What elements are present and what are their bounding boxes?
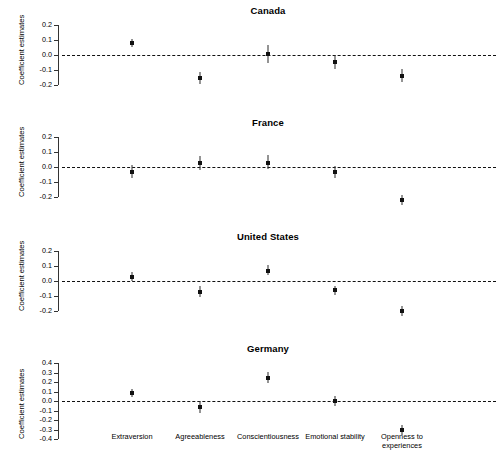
panel-canada: Canada0.20.10.0-0.1-0.2Coefficient estim… xyxy=(0,0,496,105)
y-axis-tick xyxy=(54,439,58,440)
data-point xyxy=(198,290,202,294)
y-axis-tick xyxy=(54,311,58,312)
y-axis-tick-label: 0.2 xyxy=(42,378,52,385)
panel-france: France0.20.10.0-0.1-0.2Coefficient estim… xyxy=(0,110,496,217)
y-axis-tick-label: -0.2 xyxy=(40,416,52,423)
y-axis-tick xyxy=(54,251,58,252)
y-axis-tick xyxy=(54,70,58,71)
y-axis-tick-label: -0.1 xyxy=(40,178,52,185)
y-axis-label: Coefficient estimates xyxy=(18,241,26,311)
y-axis-tick xyxy=(54,401,58,402)
data-point xyxy=(130,41,134,45)
y-axis-tick-label: -0.2 xyxy=(40,81,52,88)
zero-reference-line xyxy=(62,167,496,168)
y-axis-tick-label: -0.3 xyxy=(40,426,52,433)
zero-reference-line xyxy=(62,281,496,282)
y-axis-tick xyxy=(54,363,58,364)
data-point xyxy=(333,170,337,174)
data-point xyxy=(333,60,337,64)
y-axis-tick xyxy=(54,182,58,183)
data-point xyxy=(266,52,270,56)
y-axis-tick xyxy=(54,420,58,421)
y-axis-tick xyxy=(54,55,58,56)
y-axis-tick-label: 0.1 xyxy=(42,388,52,395)
y-axis-tick-label: -0.4 xyxy=(40,435,52,442)
y-axis-spine xyxy=(58,137,59,197)
y-axis-tick-label: -0.1 xyxy=(40,407,52,414)
y-axis-spine xyxy=(58,363,59,439)
data-point xyxy=(198,76,202,80)
data-point xyxy=(266,161,270,165)
y-axis-tick xyxy=(54,296,58,297)
plot-area: 0.40.30.20.10.0-0.1-0.2-0.3-0.4Coefficie… xyxy=(58,363,496,439)
data-point xyxy=(198,405,202,409)
panel-title: United States xyxy=(58,231,478,242)
y-axis-tick-label: -0.2 xyxy=(40,193,52,200)
y-axis-tick-label: 0.2 xyxy=(42,247,52,254)
data-point xyxy=(400,74,404,78)
plot-area: 0.20.10.0-0.1-0.2Coefficient estimates xyxy=(58,251,496,311)
plot-area: 0.20.10.0-0.1-0.2Coefficient estimates xyxy=(58,137,496,197)
y-axis-tick-label: -0.1 xyxy=(40,66,52,73)
y-axis-tick xyxy=(54,40,58,41)
data-point xyxy=(266,269,270,273)
coefficient-estimates-figure: Canada0.20.10.0-0.1-0.2Coefficient estim… xyxy=(0,0,496,464)
y-axis-tick xyxy=(54,197,58,198)
data-point xyxy=(400,309,404,313)
y-axis-tick-label: 0.4 xyxy=(42,359,52,366)
y-axis-tick xyxy=(54,266,58,267)
data-point xyxy=(130,275,134,279)
y-axis-tick xyxy=(54,382,58,383)
y-axis-tick-label: -0.1 xyxy=(40,292,52,299)
y-axis-tick xyxy=(54,392,58,393)
data-point xyxy=(198,161,202,165)
y-axis-tick-label: 0.0 xyxy=(42,397,52,404)
data-point xyxy=(333,288,337,292)
y-axis-label: Coefficient estimates xyxy=(18,369,26,439)
panel-united-states: United States0.20.10.0-0.1-0.2Coefficien… xyxy=(0,222,496,331)
data-point xyxy=(266,376,270,380)
zero-reference-line xyxy=(62,55,496,56)
y-axis-spine xyxy=(58,251,59,311)
y-axis-tick-label: 0.3 xyxy=(42,369,52,376)
data-point xyxy=(333,399,337,403)
y-axis-tick xyxy=(54,85,58,86)
y-axis-tick-label: 0.1 xyxy=(42,262,52,269)
y-axis-tick xyxy=(54,152,58,153)
y-axis-tick-label: 0.1 xyxy=(42,36,52,43)
y-axis-label: Coefficient estimates xyxy=(18,127,26,197)
panel-title: Canada xyxy=(58,5,478,16)
x-axis-label-openness-to-experiences: Openness to experiences xyxy=(362,432,442,450)
y-axis-tick xyxy=(54,25,58,26)
y-axis-tick xyxy=(54,137,58,138)
y-axis-tick xyxy=(54,411,58,412)
data-point xyxy=(400,198,404,202)
y-axis-tick-label: 0.0 xyxy=(42,163,52,170)
panel-title: France xyxy=(58,117,478,128)
y-axis-tick-label: 0.0 xyxy=(42,277,52,284)
panel-title: Germany xyxy=(58,343,478,354)
data-point xyxy=(130,170,134,174)
y-axis-tick-label: 0.2 xyxy=(42,21,52,28)
y-axis-spine xyxy=(58,25,59,85)
y-axis-tick xyxy=(54,430,58,431)
zero-reference-line xyxy=(62,401,496,402)
y-axis-tick xyxy=(54,373,58,374)
y-axis-tick-label: 0.1 xyxy=(42,148,52,155)
plot-area: 0.20.10.0-0.1-0.2Coefficient estimates xyxy=(58,25,496,85)
data-point xyxy=(130,391,134,395)
y-axis-tick xyxy=(54,167,58,168)
y-axis-tick-label: 0.0 xyxy=(42,51,52,58)
y-axis-label: Coefficient estimates xyxy=(18,15,26,85)
y-axis-tick-label: 0.2 xyxy=(42,133,52,140)
y-axis-tick-label: -0.2 xyxy=(40,307,52,314)
y-axis-tick xyxy=(54,281,58,282)
